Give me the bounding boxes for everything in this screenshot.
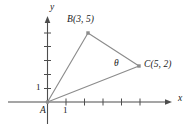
figure-container: y x B(3, 5) C(5, 2) A θ 1 1 — [0, 0, 193, 129]
triangle-abc — [48, 33, 140, 102]
y-axis-label: y — [50, 3, 54, 13]
point-a-label: A — [40, 106, 46, 116]
point-c-label: C(5, 2) — [144, 60, 172, 70]
y-axis-tick-label-1: 1 — [36, 83, 41, 92]
point-b-label: B(3, 5) — [67, 15, 94, 25]
x-axis-label: x — [178, 94, 182, 104]
x-axis — [8, 99, 172, 105]
vertex-points — [46, 31, 141, 104]
x-axis-tick-label-1: 1 — [63, 106, 68, 115]
theta-angle-label: θ — [114, 59, 119, 69]
